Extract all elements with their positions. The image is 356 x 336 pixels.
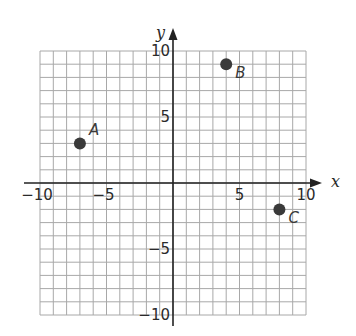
point-marker-icon xyxy=(220,58,232,70)
x-tick-label: −5 xyxy=(92,186,114,204)
y-tick-label: 10 xyxy=(151,42,170,60)
point-marker-icon xyxy=(74,137,86,149)
point-b: B xyxy=(220,58,245,82)
x-tick-label: 5 xyxy=(235,186,245,204)
point-label: C xyxy=(288,209,299,227)
y-axis-arrow-icon xyxy=(169,28,178,40)
point-c: C xyxy=(273,203,299,227)
y-tick-label: 5 xyxy=(160,108,170,126)
y-axis-label: y xyxy=(155,23,166,42)
point-a: A xyxy=(74,121,99,149)
point-label: B xyxy=(235,64,245,82)
y-tick-label: −10 xyxy=(138,306,170,324)
point-marker-icon xyxy=(273,203,285,215)
x-axis-label: x xyxy=(331,172,340,191)
x-tick-label: −10 xyxy=(21,186,53,204)
point-label: A xyxy=(88,121,99,139)
coordinate-plane: x y −10−5510105−5−10 ABC xyxy=(0,0,356,336)
y-tick-label: −5 xyxy=(148,240,170,258)
x-tick-label: 10 xyxy=(296,186,315,204)
